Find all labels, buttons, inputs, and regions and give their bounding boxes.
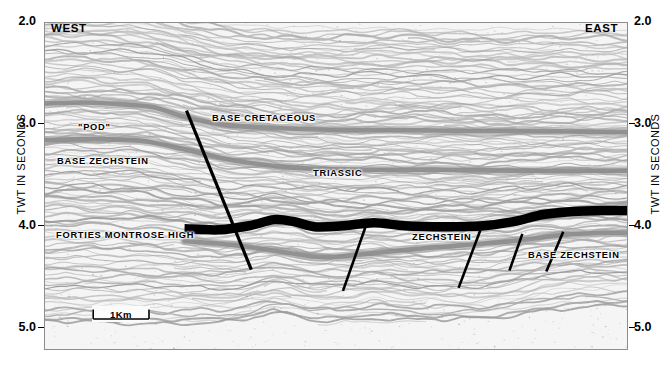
seismic-panel <box>44 22 628 350</box>
axis-tick-right-5: 5.0 <box>634 320 668 334</box>
axis-tick-mark <box>38 327 44 329</box>
axis-tick-mark <box>38 225 44 227</box>
scale-bar: 1Km <box>92 306 150 322</box>
label-base-zechstein-west: BASE ZECHSTEIN <box>57 156 149 166</box>
seismic-figure: 2.0 3.0 4.0 5.0 2.0 3.0 4.0 5.0 TWT IN S… <box>0 0 672 379</box>
label-base-zechstein-east: BASE ZECHSTEIN <box>528 250 620 260</box>
label-pod: "POD" <box>78 122 111 132</box>
seismic-traces <box>45 23 627 349</box>
axis-tick-mark <box>38 123 44 125</box>
axis-tick-right-2: 2.0 <box>634 14 668 28</box>
label-forties-montrose-high: FORTIES MONTROSE HIGH <box>56 230 194 240</box>
label-zechstein: ZECHSTEIN <box>412 232 471 242</box>
axis-tick-mark <box>629 225 635 227</box>
axis-tick-left-5: 5.0 <box>2 320 36 334</box>
axis-title-left: TWT IN SECONDS <box>15 99 27 229</box>
axis-tick-mark <box>629 123 635 125</box>
compass-west: WEST <box>51 22 87 34</box>
label-triassic: TRIASSIC <box>313 168 362 178</box>
axis-title-right: TWT IN SECONDS <box>649 99 661 229</box>
axis-tick-mark <box>629 327 635 329</box>
scale-bar-label: 1Km <box>110 309 132 320</box>
label-base-cretaceous: BASE CRETACEOUS <box>212 113 316 123</box>
compass-east: EAST <box>585 22 618 34</box>
axis-tick-left-2: 2.0 <box>2 14 36 28</box>
